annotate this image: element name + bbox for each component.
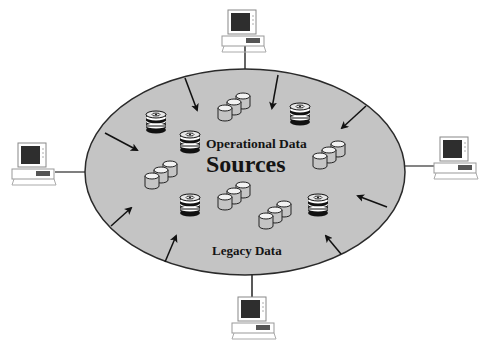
title-operational-data: Operational Data xyxy=(206,136,307,151)
disk-stack-icon xyxy=(290,103,310,126)
disk-stack-icon xyxy=(146,111,166,134)
desktop-computer-icon-top xyxy=(222,10,266,52)
operational-data-sources-diagram: Operational Data Sources Legacy Data xyxy=(0,0,488,347)
desktop-computer-icon-bottom xyxy=(232,297,276,339)
title-sources: Sources xyxy=(206,151,286,177)
desktop-computer-icon-right xyxy=(434,137,478,179)
disk-stack-icon xyxy=(180,131,200,154)
disk-stack-icon xyxy=(180,194,200,217)
disk-stack-icon xyxy=(308,194,328,217)
desktop-computer-icon-left xyxy=(12,143,56,185)
legacy-data-label: Legacy Data xyxy=(212,243,282,258)
